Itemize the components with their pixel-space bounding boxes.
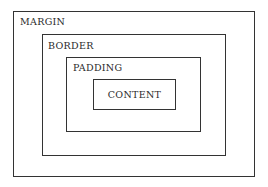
padding-label: PADDING: [73, 62, 122, 73]
content-label: CONTENT: [93, 79, 176, 110]
border-label: BORDER: [48, 40, 94, 51]
margin-label: MARGIN: [20, 16, 65, 27]
